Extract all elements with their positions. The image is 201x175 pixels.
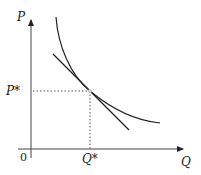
y-axis-label: P — [16, 10, 26, 24]
origin-label: 0 — [20, 151, 27, 164]
q-star-label: Q* — [82, 152, 98, 166]
tangent-point — [88, 89, 92, 93]
p-star-label: P* — [5, 84, 20, 98]
x-axis-label: Q — [181, 155, 191, 169]
demand-curve — [56, 17, 160, 123]
diagram-canvas: P Q 0 P* Q* — [0, 0, 201, 175]
